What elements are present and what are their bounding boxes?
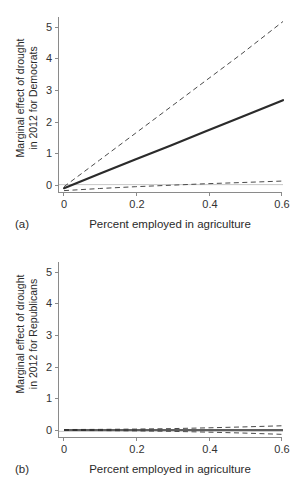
upper-ci-line-b xyxy=(64,426,283,430)
plot-area-b xyxy=(58,262,282,438)
x-tick-label-a-1: 0.2 xyxy=(122,199,152,210)
x-tick-mark-a-0 xyxy=(63,193,64,196)
y-axis-title-b-line1: Marginal effect of drought xyxy=(14,254,27,414)
panel-caption-a: (a) xyxy=(15,219,29,231)
x-axis-title-b: Percent employed in agriculture xyxy=(58,464,282,476)
y-tick-label-a-3: 3 xyxy=(38,85,52,96)
plot-svg-a xyxy=(59,17,283,193)
y-tick-label-b-1: 1 xyxy=(38,393,52,404)
y-tick-label-a-4: 4 xyxy=(38,53,52,64)
y-tick-label-b-4: 4 xyxy=(38,298,52,309)
x-tick-label-b-1: 0.2 xyxy=(122,444,152,455)
x-tick-label-a-3: 0.6 xyxy=(267,199,297,210)
plot-svg-b xyxy=(59,262,283,438)
y-axis-title-b: Marginal effect of drought in 2012 for R… xyxy=(14,254,39,414)
y-tick-label-a-0: 0 xyxy=(38,180,52,191)
x-tick-mark-a-1 xyxy=(136,193,137,196)
panel-b: Marginal effect of drought in 2012 for R… xyxy=(0,242,303,484)
x-tick-mark-b-1 xyxy=(136,438,137,441)
y-tick-label-b-5: 5 xyxy=(38,267,52,278)
estimate-line-a xyxy=(64,100,283,188)
y-axis-title-a: Marginal effect of drought in 2012 for D… xyxy=(14,18,39,178)
x-tick-label-b-3: 0.6 xyxy=(267,444,297,455)
y-tick-label-b-0: 0 xyxy=(38,425,52,436)
y-tick-label-b-3: 3 xyxy=(38,330,52,341)
x-tick-label-a-0: 0 xyxy=(49,199,79,210)
x-tick-mark-a-3 xyxy=(281,193,282,196)
x-tick-mark-b-0 xyxy=(63,438,64,441)
y-tick-label-b-2: 2 xyxy=(38,362,52,373)
panel-a: Marginal effect of drought in 2012 for D… xyxy=(0,0,303,242)
x-tick-label-b-0: 0 xyxy=(49,444,79,455)
lower-ci-line-a xyxy=(64,181,283,191)
panel-caption-b: (b) xyxy=(15,464,29,476)
x-tick-mark-b-2 xyxy=(209,438,210,441)
y-tick-label-a-2: 2 xyxy=(38,117,52,128)
plot-area-a xyxy=(58,17,282,193)
figure-container: Marginal effect of drought in 2012 for D… xyxy=(0,0,303,484)
x-axis-title-a: Percent employed in agriculture xyxy=(58,219,282,231)
x-tick-mark-a-2 xyxy=(209,193,210,196)
y-tick-label-a-5: 5 xyxy=(38,22,52,33)
y-tick-label-a-1: 1 xyxy=(38,148,52,159)
x-tick-label-a-2: 0.4 xyxy=(195,199,225,210)
y-axis-title-a-line1: Marginal effect of drought xyxy=(14,18,27,178)
x-tick-mark-b-3 xyxy=(281,438,282,441)
upper-ci-line-a xyxy=(64,21,283,186)
x-tick-label-b-2: 0.4 xyxy=(195,444,225,455)
